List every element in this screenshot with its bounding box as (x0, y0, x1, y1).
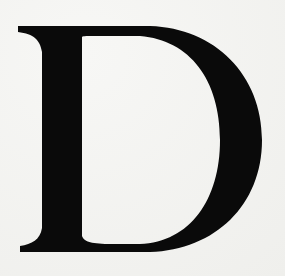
paper-background: D (0, 0, 285, 276)
drop-cap-letter-d (0, 0, 285, 276)
